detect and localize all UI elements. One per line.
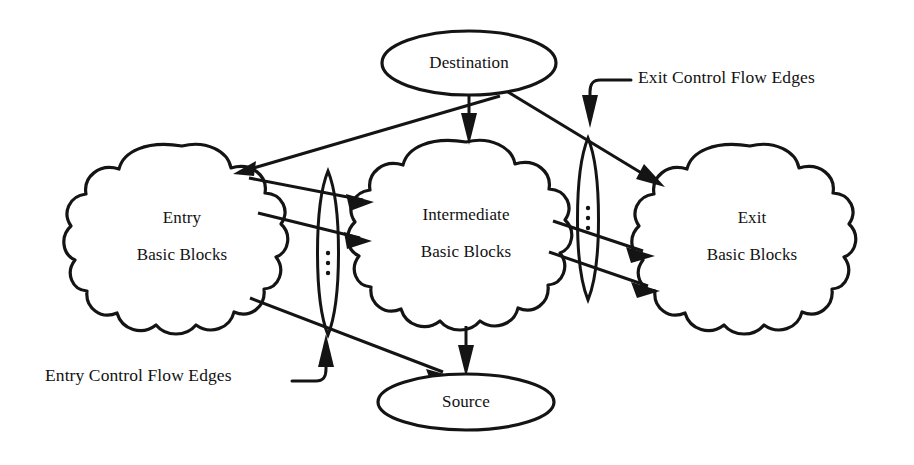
entry-lens-ellipsis-dot-2 (326, 261, 330, 265)
intermediate-cloud-label-line2: Basic Blocks (421, 242, 511, 261)
exit-annotation-label: Exit Control Flow Edges (638, 67, 815, 87)
intermediate-to-source-arrowhead (458, 345, 474, 377)
destination-ellipse: Destination (382, 31, 556, 95)
source-ellipse: Source (378, 374, 554, 430)
entry-cloud-label-line2: Basic Blocks (137, 245, 227, 264)
entry-annotation-label: Entry Control Flow Edges (45, 365, 232, 385)
diagram-canvas: Entry Basic Blocks Intermediate Basic Bl… (0, 0, 914, 465)
exit-edge-bundle-lens (578, 138, 599, 300)
control-flow-diagram: Entry Basic Blocks Intermediate Basic Bl… (0, 0, 914, 465)
entry-annotation-arrowhead (318, 334, 334, 367)
intermediate-cloud-outline (348, 140, 572, 330)
exit-annotation-arrowhead (582, 95, 598, 128)
entry-control-flow-edges-annotation: Entry Control Flow Edges (45, 334, 334, 385)
intermediate-to-source-edge (458, 326, 474, 377)
exit-lens-ellipsis-dot-2 (586, 216, 590, 220)
entry-edge-bundle-lens (318, 171, 339, 335)
exit-lens-ellipsis-dot-1 (586, 206, 590, 210)
source-label: Source (442, 392, 490, 411)
entry-lens-ellipsis-dot-1 (326, 251, 330, 255)
exit-basic-blocks-cloud: Exit Basic Blocks (632, 144, 856, 334)
exit-cloud-label-line1: Exit (738, 208, 767, 227)
exit-lens-ellipsis-dot-3 (586, 226, 590, 230)
exit-control-flow-edges-annotation: Exit Control Flow Edges (582, 67, 815, 128)
entry-lens-ellipsis-dot-3 (326, 271, 330, 275)
intermediate-basic-blocks-cloud: Intermediate Basic Blocks (348, 140, 572, 330)
intermediate-cloud-label-line1: Intermediate (422, 205, 509, 224)
exit-cloud-label-line2: Basic Blocks (707, 245, 797, 264)
destination-label: Destination (429, 53, 509, 72)
entry-cloud-label-line1: Entry (163, 208, 202, 227)
exit-cloud-outline (632, 144, 856, 334)
